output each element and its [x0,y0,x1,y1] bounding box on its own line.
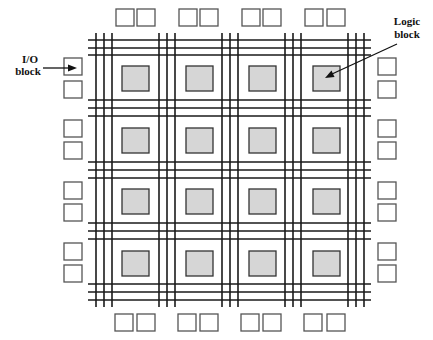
io-block-left [64,182,82,199]
logic-block [186,66,213,91]
io-block-right [378,120,396,137]
logic-block [249,189,276,214]
io-block-bottom [137,314,155,331]
logic-block [186,189,213,214]
logic-block [249,66,276,91]
io-block-bottom [115,314,133,331]
io-block-right [378,243,396,260]
io-block-top [263,9,281,26]
io-block-top [179,9,197,26]
io-block-bottom [263,314,281,331]
io-block-bottom [241,314,259,331]
io-block-label-line1: I/O [22,53,38,65]
logic-block [313,189,340,214]
io-block-right [378,204,396,221]
logic-block [313,66,340,91]
io-block-top [242,9,260,26]
io-block-left [64,243,82,260]
logic-blocks [122,66,340,276]
logic-block-label-line1: Logic [394,15,420,27]
io-block-right [378,58,396,75]
io-block-right [378,142,396,159]
io-block-top [327,9,345,26]
io-block-left [64,142,82,159]
io-block-left [64,265,82,282]
logic-block [313,251,340,276]
io-block-right [378,81,396,98]
io-block-right [378,265,396,282]
logic-block-label-line2: block [394,28,421,40]
io-block-right [378,182,396,199]
logic-block [186,251,213,276]
logic-block [249,251,276,276]
io-block-label-line2: block [15,65,42,77]
io-block-bottom [327,314,345,331]
logic-block [122,189,149,214]
io-block-top [137,9,155,26]
logic-block [122,128,149,153]
logic-block [313,128,340,153]
io-block-left [64,120,82,137]
logic-block [122,66,149,91]
logic-block [249,128,276,153]
io-block-bottom [178,314,196,331]
io-block-bottom [304,314,322,331]
io-block-top [305,9,323,26]
logic-block [186,128,213,153]
logic-block [122,251,149,276]
io-block-left [64,204,82,221]
fpga-diagram: I/O block Logic block [0,0,433,340]
io-block-top [200,9,218,26]
io-block-left [64,81,82,98]
io-block-top [116,9,134,26]
io-block-bottom [200,314,218,331]
